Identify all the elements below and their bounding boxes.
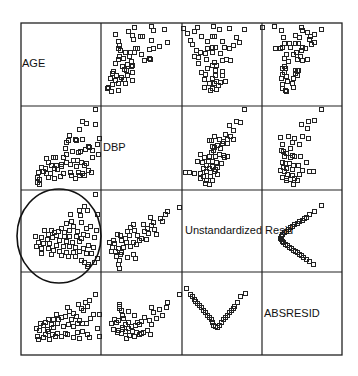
data-point <box>287 60 291 64</box>
data-point <box>204 52 208 56</box>
scatter-panel <box>106 25 186 94</box>
data-point <box>109 77 113 81</box>
data-point <box>76 331 80 335</box>
data-point <box>48 338 52 342</box>
data-point <box>131 34 135 38</box>
data-point <box>166 41 170 45</box>
data-point <box>92 313 96 317</box>
data-point <box>126 256 130 260</box>
data-point <box>288 162 292 166</box>
data-point <box>306 127 310 131</box>
data-point <box>53 177 57 181</box>
data-point <box>115 74 119 78</box>
data-point <box>205 58 209 62</box>
scatter-panel <box>184 108 247 187</box>
data-point <box>221 40 225 44</box>
data-point <box>55 313 59 317</box>
data-point <box>118 259 122 263</box>
data-point <box>133 335 137 339</box>
data-point <box>130 60 134 64</box>
data-point <box>148 319 152 323</box>
data-point <box>228 27 232 31</box>
data-point <box>150 306 154 310</box>
data-point <box>320 28 324 32</box>
data-point <box>114 33 118 37</box>
data-point <box>235 120 239 124</box>
data-point <box>72 325 76 329</box>
data-point <box>149 216 153 220</box>
data-point <box>127 310 131 314</box>
data-point <box>80 221 84 225</box>
data-point <box>49 172 53 176</box>
data-point <box>85 252 89 256</box>
data-point <box>69 213 73 217</box>
data-point <box>228 124 232 128</box>
data-point <box>52 249 56 253</box>
data-point <box>74 177 78 181</box>
data-point <box>224 80 228 84</box>
data-point <box>145 238 149 242</box>
data-point <box>42 242 46 246</box>
data-point <box>143 316 147 320</box>
data-point <box>199 153 203 157</box>
data-point <box>78 337 82 341</box>
data-point <box>47 233 51 237</box>
label-age: AGE <box>22 57 45 69</box>
label-dbp: DBP <box>103 141 126 153</box>
data-point <box>153 228 157 232</box>
data-point <box>206 47 210 51</box>
data-point <box>126 74 130 78</box>
data-point <box>133 314 137 318</box>
data-point <box>289 147 293 151</box>
data-point <box>132 253 136 257</box>
data-point <box>89 317 93 321</box>
data-point <box>78 128 82 132</box>
data-point <box>163 28 167 32</box>
data-point <box>133 26 137 30</box>
data-point <box>280 29 284 33</box>
data-point <box>124 82 128 86</box>
data-point <box>112 328 116 332</box>
data-point <box>193 30 197 34</box>
data-point <box>97 153 101 157</box>
data-point <box>117 263 121 267</box>
data-point <box>62 325 66 329</box>
data-point <box>120 239 124 243</box>
scatter-panel <box>279 108 324 187</box>
data-point <box>203 78 207 82</box>
data-point <box>65 161 69 165</box>
data-point <box>219 52 223 56</box>
data-point <box>86 234 90 238</box>
data-point <box>150 39 154 43</box>
data-point <box>283 57 287 61</box>
data-point <box>203 86 207 90</box>
data-point <box>131 71 135 75</box>
data-point <box>201 161 205 165</box>
data-point <box>45 157 49 161</box>
data-point <box>199 51 203 55</box>
data-point <box>291 168 295 172</box>
data-point <box>294 34 298 38</box>
data-point <box>67 323 71 327</box>
data-point <box>203 156 207 160</box>
data-point <box>126 63 130 67</box>
data-point <box>43 229 47 233</box>
data-point <box>111 246 115 250</box>
data-point <box>196 160 200 164</box>
data-point <box>297 164 301 168</box>
data-point <box>291 141 295 145</box>
data-point <box>125 241 129 245</box>
scatter-points <box>34 25 324 342</box>
data-point <box>64 147 68 151</box>
data-point <box>85 122 89 126</box>
data-point <box>229 59 233 63</box>
data-point <box>62 245 66 249</box>
data-point <box>118 267 122 271</box>
data-point <box>287 135 291 139</box>
data-point <box>212 25 216 29</box>
data-point <box>94 108 98 112</box>
data-point <box>308 170 312 174</box>
data-point <box>70 318 74 322</box>
data-point <box>133 229 137 233</box>
data-point <box>128 234 132 238</box>
